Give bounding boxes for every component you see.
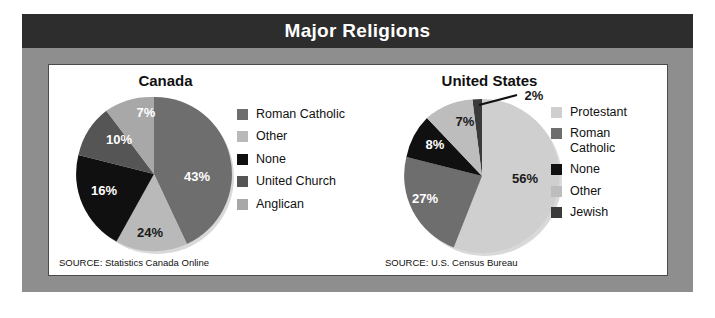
canada-chart-section: Canada 43% 24% 16% 10 <box>49 65 379 275</box>
canada-legend-item-anglican: Anglican <box>237 197 345 211</box>
us-legend-label-jewish: Jewish <box>570 205 608 219</box>
canada-legend-item-united-church: United Church <box>237 174 345 188</box>
us-label-other: 7% <box>456 114 475 129</box>
legend-swatch-icon <box>237 154 248 165</box>
us-label-roman-catholic: 27% <box>412 191 438 206</box>
canada-pie-chart: 43% 24% 16% 10% 7% <box>71 91 237 257</box>
legend-swatch-icon <box>551 128 562 139</box>
united-states-source-caption: SOURCE: U.S. Census Bureau <box>385 257 518 268</box>
legend-swatch-icon <box>551 164 562 175</box>
us-legend-item-other: Other <box>551 184 627 198</box>
us-legend-item-jewish: Jewish <box>551 205 627 219</box>
us-label-protestant: 56% <box>512 171 538 186</box>
legend-swatch-icon <box>237 199 248 210</box>
legend-swatch-icon <box>237 131 248 142</box>
figure-title: Major Religions <box>285 20 431 42</box>
legend-swatch-icon <box>237 109 248 120</box>
legend-swatch-icon <box>551 186 562 197</box>
canada-label-none: 16% <box>91 183 117 198</box>
us-legend-label-none: None <box>570 162 600 176</box>
canada-legend-label-united-church: United Church <box>256 174 336 188</box>
legend-swatch-icon <box>551 107 562 118</box>
canada-legend: Roman Catholic Other None United Church … <box>237 107 345 219</box>
united-states-legend: Protestant Roman Catholic None Other Jew… <box>551 105 627 226</box>
canada-pie-wrap: 43% 24% 16% 10% 7% <box>71 91 237 257</box>
us-legend-item-none: None <box>551 162 627 176</box>
us-legend-label-roman-catholic: Roman Catholic <box>570 126 615 155</box>
canada-chart-title: Canada <box>63 72 268 89</box>
us-legend-item-roman-catholic: Roman Catholic <box>551 126 627 155</box>
canada-legend-label-none: None <box>256 152 286 166</box>
united-states-chart-title: United States <box>387 72 592 89</box>
canada-legend-label-roman-catholic: Roman Catholic <box>256 107 345 121</box>
canada-legend-label-anglican: Anglican <box>256 197 304 211</box>
us-legend-label-protestant: Protestant <box>570 105 627 119</box>
canada-legend-item-none: None <box>237 152 345 166</box>
canada-label-other: 24% <box>137 225 163 240</box>
canada-label-united-church: 10% <box>106 132 132 147</box>
us-label-none: 8% <box>426 137 445 152</box>
us-label-jewish-callout: 2% <box>525 91 544 103</box>
canada-label-anglican: 7% <box>137 105 156 120</box>
us-legend-label-other: Other <box>570 184 601 198</box>
united-states-pie-wrap: 56% 27% 8% 7% 2% <box>397 91 567 261</box>
canada-legend-item-other: Other <box>237 129 345 143</box>
canada-legend-item-roman-catholic: Roman Catholic <box>237 107 345 121</box>
legend-swatch-icon <box>237 176 248 187</box>
united-states-pie-chart: 56% 27% 8% 7% 2% <box>397 91 567 261</box>
canada-legend-label-other: Other <box>256 129 287 143</box>
canada-label-roman-catholic: 43% <box>184 169 210 184</box>
figure-container: Major Religions Canada 43% <box>22 14 693 292</box>
us-legend-item-protestant: Protestant <box>551 105 627 119</box>
canada-source-caption: SOURCE: Statistics Canada Online <box>59 257 209 268</box>
united-states-chart-section: United States 56% <box>379 65 667 275</box>
charts-panel: Canada 43% 24% 16% 10 <box>48 64 668 276</box>
legend-swatch-icon <box>551 207 562 218</box>
figure-title-bar: Major Religions <box>22 14 693 48</box>
